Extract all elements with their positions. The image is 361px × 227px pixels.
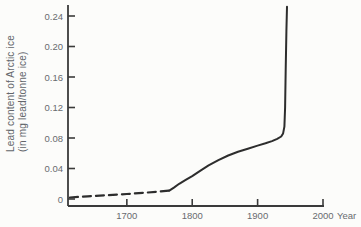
- y-axis-label-line2: (in mg lead/tonne ice): [17, 51, 28, 152]
- y-tick-label: 0.24: [45, 11, 64, 22]
- y-tick-label: 0: [58, 194, 63, 205]
- y-tick-label: 0.04: [45, 163, 64, 174]
- y-axis-label-line1: Lead content of Arctic ice: [5, 35, 16, 152]
- y-tick-label: 0.16: [45, 72, 64, 83]
- x-axis-title: Year: [337, 210, 356, 221]
- x-tick-label: 1900: [247, 210, 268, 221]
- y-tick-label: 0.08: [45, 133, 64, 144]
- x-tick-label: 1700: [116, 210, 137, 221]
- y-tick-label: 0.20: [45, 41, 64, 52]
- lead-ice-chart: 00.040.080.120.160.200.24170018001900200…: [0, 0, 361, 227]
- series-estimated-historic-lead: [70, 191, 169, 198]
- x-tick-label: 2000: [312, 210, 333, 221]
- y-tick-label: 0.12: [45, 102, 64, 113]
- x-tick-label: 1800: [182, 210, 203, 221]
- chart-canvas: 00.040.080.120.160.200.24170018001900200…: [0, 0, 361, 227]
- series-measured-lead: [169, 7, 287, 191]
